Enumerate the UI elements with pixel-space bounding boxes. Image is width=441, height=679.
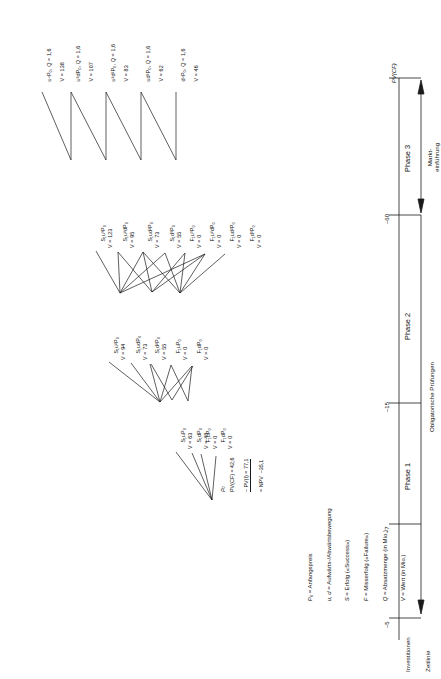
axis-tick--60: –60 [384,214,391,224]
label-zeitlinie: Zeitlinie [424,651,431,672]
phase-label-1: Phase 1 [404,463,413,490]
axis-tick--5: –5 [384,621,391,628]
bracket-label-markteinfuehrung: Markt-einführung [426,143,441,172]
bracket-label-obligatorische-pruefungen: Obligatorische Prüfungen [428,362,435,432]
axis-label-pv: PV(CF) [384,63,405,90]
axis-tick--7: –7 [384,526,391,533]
bracket-markteinfuehrung [418,80,424,213]
bracket-obligatorische-pruefungen [418,215,424,614]
phase-label-2: Phase 2 [404,313,413,340]
label-investitionen: Investitionen [404,637,411,672]
axis-tick--15: –15 [384,402,391,412]
phase-label-3: Phase 3 [404,145,413,172]
